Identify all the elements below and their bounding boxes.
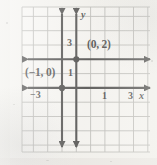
x-axis-name-label: x	[139, 91, 144, 101]
point-0-2	[73, 56, 79, 62]
graph-canvas	[0, 0, 157, 165]
grid-panel	[22, 7, 150, 152]
point-label-0-2: (0, 2)	[87, 39, 111, 51]
coordinate-plane-figure: (0, 2) (−1, 0) 3 1 −3 1 3 x y	[0, 0, 157, 165]
x-axis-tick-label-3: 3	[128, 91, 133, 101]
y-axis-tick-label-3: 3	[67, 38, 72, 48]
y-axis-tick-label-1: 1	[68, 68, 73, 78]
y-axis-name-label: y	[81, 10, 85, 20]
point-label-neg1-0: (−1, 0)	[25, 67, 55, 79]
x-axis-tick-label-negative-3: −3	[30, 90, 41, 100]
point-neg1-0	[59, 85, 65, 91]
x-axis-tick-label-1: 1	[102, 91, 107, 101]
